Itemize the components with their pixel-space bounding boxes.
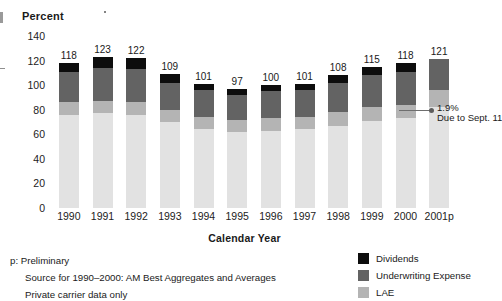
bar-segment-underwriting-expense: [93, 68, 113, 101]
bar-segment-losses: [59, 115, 79, 208]
annotation-leader-line: [399, 110, 431, 111]
bar-segment-losses: [295, 129, 315, 208]
bar-segment-lae: [396, 105, 416, 119]
bar-segment-lae: [295, 117, 315, 129]
x-axis-tick-2001p: 2001p: [425, 210, 454, 222]
x-axis-tick-1990: 1990: [57, 210, 80, 222]
bar-segment-losses: [227, 132, 247, 208]
bar-1994[interactable]: 101: [194, 84, 214, 208]
bar-segment-lae: [362, 107, 382, 121]
bar-1991[interactable]: 123: [93, 57, 113, 208]
x-axis-tick-1992: 1992: [124, 210, 147, 222]
bar-segment-lae: [160, 110, 180, 122]
bar-2000[interactable]: 118: [396, 63, 416, 208]
legend-item-label: Underwriting Expense: [376, 270, 471, 281]
bar-segment-lae: [227, 120, 247, 132]
legend-item-dividends[interactable]: Dividends: [358, 250, 471, 267]
bar-value-label: 121: [431, 46, 448, 57]
bar-segment-underwriting-expense: [429, 59, 449, 90]
bar-value-label: 108: [330, 62, 347, 73]
bar-segment-dividends: [126, 58, 146, 69]
y-axis-tick-0: 0: [39, 202, 45, 214]
legend-swatch-icon: [358, 270, 369, 281]
bar-1997[interactable]: 101: [295, 84, 315, 208]
bar-1993[interactable]: 109: [160, 74, 180, 208]
bar-value-label: 118: [398, 50, 414, 61]
bar-segment-underwriting-expense: [194, 90, 214, 117]
y-axis-tick-60: 60: [33, 128, 45, 140]
x-axis-tick-1997: 1997: [293, 210, 316, 222]
bar-segment-dividends: [362, 67, 382, 76]
bar-segment-underwriting-expense: [126, 69, 146, 102]
bar-segment-underwriting-expense: [160, 83, 180, 110]
bar-segment-losses: [328, 126, 348, 208]
x-axis-tick-1991: 1991: [91, 210, 114, 222]
bar-segment-losses: [261, 131, 281, 208]
x-axis-tick-1994: 1994: [192, 210, 215, 222]
footnote-source: Source for 1990–2000: AM Best Aggregates…: [25, 272, 276, 283]
footnote-preliminary: p: Preliminary: [10, 255, 69, 266]
bar-segment-lae: [194, 117, 214, 129]
plot-area: 140120100806040200 118123122109101971001…: [52, 36, 456, 208]
legend-item-lae[interactable]: LAE: [358, 284, 471, 301]
bar-value-label: 100: [262, 72, 279, 83]
bar-segment-lae: [261, 118, 281, 130]
bar-1990[interactable]: 118: [59, 63, 79, 208]
bar-value-label: 101: [195, 71, 212, 82]
bar-1998[interactable]: 108: [328, 75, 348, 208]
x-axis-tick-1995: 1995: [225, 210, 248, 222]
y-axis-tick-100: 100: [27, 79, 45, 91]
annotation-marker-dot: [429, 108, 434, 113]
bar-segment-underwriting-expense: [227, 95, 247, 120]
bar-segment-lae: [328, 112, 348, 126]
bar-segment-lae: [59, 102, 79, 114]
bar-segment-underwriting-expense: [328, 83, 348, 112]
bar-segment-losses: [362, 121, 382, 208]
bar-segment-lae: [126, 102, 146, 114]
bar-value-label: 123: [94, 44, 111, 55]
legend-item-underwriting-expense[interactable]: Underwriting Expense: [358, 267, 471, 284]
bar-value-label: 101: [296, 71, 313, 82]
bar-segment-losses: [194, 129, 214, 208]
scan-edge-artifact-mid: [0, 68, 5, 69]
bar-value-label: 97: [232, 76, 243, 87]
annotation-caption: Due to Sept. 11: [437, 112, 502, 123]
bar-segment-underwriting-expense: [362, 75, 382, 107]
bar-1996[interactable]: 100: [261, 85, 281, 208]
bar-value-label: 109: [161, 61, 178, 72]
bar-segment-dividends: [59, 63, 79, 72]
y-axis-tick-80: 80: [33, 104, 45, 116]
bar-1999[interactable]: 115: [362, 67, 382, 208]
bar-segment-losses: [160, 122, 180, 208]
bar-value-label: 115: [364, 54, 380, 65]
bar-2001p[interactable]: 121: [429, 59, 449, 208]
bar-segment-dividends: [160, 74, 180, 83]
bar-segment-underwriting-expense: [295, 90, 315, 117]
bar-value-label: 122: [128, 45, 145, 56]
x-axis-tick-2000: 2000: [394, 210, 417, 222]
bar-segment-dividends: [328, 75, 348, 82]
y-axis-tick-40: 40: [33, 153, 45, 165]
bar-1992[interactable]: 122: [126, 58, 146, 208]
bar-segment-losses: [93, 113, 113, 208]
y-axis-tick-20: 20: [33, 177, 45, 189]
x-axis-title: Calendar Year: [0, 232, 489, 244]
bar-segment-underwriting-expense: [396, 72, 416, 105]
x-axis-tick-1999: 1999: [360, 210, 383, 222]
bar-value-label: 118: [61, 50, 77, 61]
x-axis-tick-1998: 1998: [326, 210, 349, 222]
bar-segment-dividends: [396, 63, 416, 72]
bar-group: 11812312210910197100101108115118121: [52, 36, 456, 208]
y-axis-title: Percent: [22, 10, 64, 22]
legend-swatch-icon: [358, 287, 369, 298]
bar-1995[interactable]: 97: [227, 89, 247, 208]
x-axis-tick-1993: 1993: [158, 210, 181, 222]
legend: DividendsUnderwriting ExpenseLAE: [358, 250, 471, 301]
legend-item-label: LAE: [376, 287, 394, 298]
x-axis-tick-1996: 1996: [259, 210, 282, 222]
bar-segment-underwriting-expense: [261, 91, 281, 118]
footnote-private-carrier: Private carrier data only: [25, 289, 127, 300]
bar-segment-losses: [126, 115, 146, 208]
y-axis-tick-120: 120: [27, 55, 45, 67]
